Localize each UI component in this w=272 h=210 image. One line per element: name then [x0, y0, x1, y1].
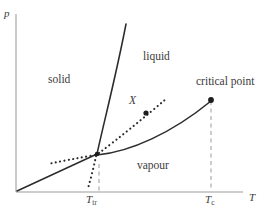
phase-diagram-figure: p T solid liquid vapour critical point X… — [0, 0, 272, 210]
state-x-dot — [143, 110, 148, 115]
x-axis-label: T — [249, 192, 255, 203]
region-label-solid: solid — [48, 74, 70, 86]
tick-label-critical-temperature-subscript: c — [211, 198, 215, 207]
sublimation-curve — [17, 154, 97, 191]
y-axis-label: p — [4, 8, 10, 19]
tick-label-triple-temperature-subscript: tr — [92, 198, 97, 207]
region-label-vapour: vapour — [137, 160, 169, 172]
triple-point-dot — [95, 152, 99, 156]
critical-point-dot — [208, 97, 214, 103]
region-label-liquid: liquid — [143, 51, 170, 63]
tick-label-triple-temperature: Ttr — [86, 194, 97, 207]
metastable-extension-lower — [88, 156, 96, 188]
fusion-curve — [97, 24, 126, 154]
critical-point-label: critical point — [196, 76, 254, 88]
state-x-label: X — [129, 95, 136, 107]
tick-label-critical-temperature: Tc — [205, 194, 215, 207]
metastable-extension-left — [48, 155, 95, 164]
metastable-extension-upper — [99, 99, 166, 153]
